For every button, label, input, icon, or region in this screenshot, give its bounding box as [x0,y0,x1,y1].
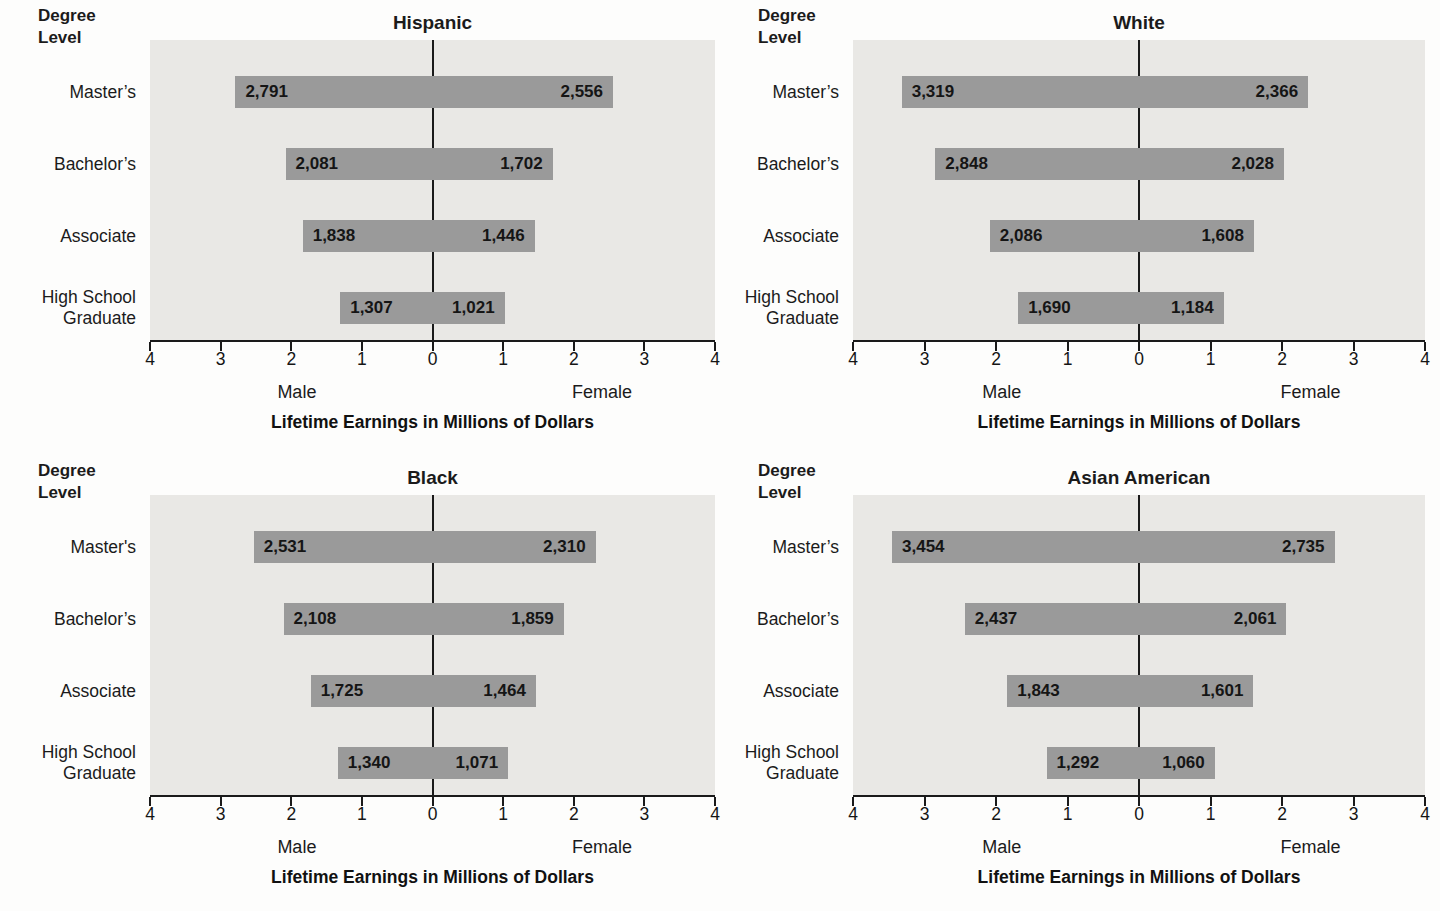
y-axis-title: DegreeLevel [758,460,816,504]
y-axis-title-line: Level [758,482,816,504]
x-axis-tick-labels: 432101234 [853,804,1425,824]
axis-tick-label: 4 [145,349,155,370]
category-label: Master’s [720,531,839,563]
female-axis-label: Female [542,382,662,403]
male-value-label: 3,319 [912,82,955,102]
female-value-label: 2,310 [543,537,586,557]
axis-tick-label: 4 [1420,804,1430,825]
female-value-label: 2,028 [1231,154,1274,174]
earnings-bar: 1,3071,021 [340,292,504,324]
axis-tick-label: 2 [286,804,296,825]
male-value-label: 1,843 [1017,681,1060,701]
axis-tick-label: 3 [640,349,650,370]
category-label: High School Graduate [720,747,839,779]
axis-tick-label: 2 [991,349,1001,370]
earnings-bar: 1,8431,601 [1007,675,1253,707]
female-axis-label: Female [542,837,662,858]
earnings-bar: 2,8482,028 [935,148,1284,180]
female-value-label: 1,021 [452,298,495,318]
y-axis-title-line: Degree [38,5,96,27]
axis-tick-label: 3 [216,349,226,370]
chart-title: Hispanic [150,12,715,34]
axis-tick-label: 1 [1206,804,1216,825]
chart-panel-bottom-right: DegreeLevelAsian American3,4542,7352,437… [720,455,1440,911]
earnings-bar: 2,4372,061 [965,603,1287,635]
axis-tick-label: 3 [1349,349,1359,370]
chart-panel-bottom-left: DegreeLevelBlack2,5312,3102,1081,8591,72… [0,455,720,911]
category-label: Associate [720,675,839,707]
axis-tick-label: 1 [1063,804,1073,825]
male-value-label: 1,838 [313,226,356,246]
earnings-bar: 2,5312,310 [254,531,596,563]
x-axis-title: Lifetime Earnings in Millions of Dollars [853,867,1425,888]
axis-tick-label: 3 [216,804,226,825]
axis-tick-label: 4 [848,804,858,825]
category-label: High School Graduate [0,747,136,779]
x-axis-title: Lifetime Earnings in Millions of Dollars [150,867,715,888]
female-value-label: 1,060 [1162,753,1205,773]
chart-panel-top-left: DegreeLevelHispanic2,7912,5562,0811,7021… [0,0,720,456]
category-label: Associate [0,675,136,707]
female-value-label: 1,464 [483,681,526,701]
y-axis-title-line: Degree [38,460,96,482]
male-value-label: 2,531 [264,537,307,557]
female-value-label: 2,556 [560,82,603,102]
male-axis-label: Male [942,837,1062,858]
x-axis-title: Lifetime Earnings in Millions of Dollars [150,412,715,433]
male-axis-label: Male [237,382,357,403]
earnings-bar: 2,0811,702 [286,148,553,180]
y-axis-title-line: Level [38,482,96,504]
male-value-label: 1,307 [350,298,393,318]
axis-tick-label: 2 [1277,349,1287,370]
y-axis-title-line: Degree [758,5,816,27]
axis-tick-label: 2 [1277,804,1287,825]
earnings-bar: 3,4542,735 [892,531,1335,563]
category-label: High School Graduate [720,292,839,324]
earnings-bar: 1,6901,184 [1018,292,1223,324]
male-value-label: 3,454 [902,537,945,557]
chart-title: White [853,12,1425,34]
category-label: Master’s [720,76,839,108]
axis-tick-label: 0 [1134,804,1144,825]
female-axis-label: Female [1251,382,1371,403]
axis-tick-label: 1 [1063,349,1073,370]
male-value-label: 2,108 [294,609,337,629]
female-value-label: 1,446 [482,226,525,246]
female-value-label: 2,366 [1256,82,1299,102]
axis-tick-label: 4 [710,349,720,370]
category-label: Bachelor’s [0,603,136,635]
female-value-label: 1,702 [500,154,543,174]
axis-tick-label: 0 [1134,349,1144,370]
male-value-label: 2,081 [296,154,339,174]
axis-tick-label: 3 [1349,804,1359,825]
category-label: Bachelor’s [0,148,136,180]
figure-lifetime-earnings-by-race: DegreeLevelHispanic2,7912,5562,0811,7021… [0,0,1440,911]
y-axis-title-line: Degree [758,460,816,482]
female-value-label: 1,184 [1171,298,1214,318]
axis-tick-label: 1 [498,349,508,370]
female-value-label: 2,735 [1282,537,1325,557]
male-axis-label: Male [942,382,1062,403]
earnings-bar: 2,1081,859 [284,603,564,635]
female-value-label: 1,608 [1201,226,1244,246]
chart-panel-top-right: DegreeLevelWhite3,3192,3662,8482,0282,08… [720,0,1440,456]
male-value-label: 1,292 [1057,753,1100,773]
axis-tick-label: 2 [286,349,296,370]
axis-tick-label: 4 [710,804,720,825]
category-label: Master's [0,531,136,563]
category-label: Bachelor’s [720,148,839,180]
category-label: Associate [720,220,839,252]
female-axis-label: Female [1251,837,1371,858]
female-value-label: 1,071 [456,753,499,773]
male-value-label: 2,848 [945,154,988,174]
male-value-label: 1,725 [321,681,364,701]
axis-tick-label: 3 [920,804,930,825]
plot-area: 3,4542,7352,4372,0611,8431,6011,2921,060 [853,495,1425,795]
male-axis-label: Male [237,837,357,858]
axis-tick-label: 4 [848,349,858,370]
plot-area: 3,3192,3662,8482,0282,0861,6081,6901,184 [853,40,1425,340]
x-axis-title: Lifetime Earnings in Millions of Dollars [853,412,1425,433]
y-axis-title: DegreeLevel [758,5,816,49]
axis-tick-label: 0 [428,804,438,825]
earnings-bar: 1,2921,060 [1047,747,1215,779]
